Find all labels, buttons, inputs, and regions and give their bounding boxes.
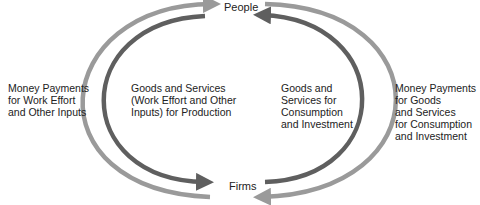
label-outer-left: Money Payments for Work Effort and Other… [8, 82, 89, 118]
label-inner-left: Goods and Services (Work Effort and Othe… [131, 82, 236, 118]
label-inner-right: Goods and Services for Consumption and I… [281, 82, 353, 130]
node-people: People [224, 1, 258, 13]
node-firms: Firms [229, 180, 257, 192]
label-outer-right: Money Payments for Goods and Services fo… [395, 82, 476, 142]
